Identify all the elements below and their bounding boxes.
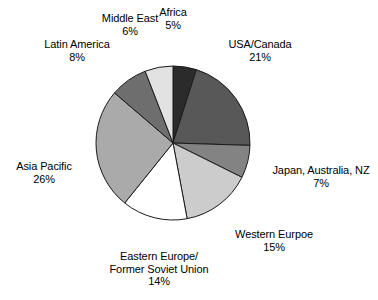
pie-label-japan-australia-nz-category: Japan, Australia, NZ — [265, 164, 377, 177]
pie-label-asia-pacific: Asia Pacific 26% — [6, 160, 82, 185]
pie-slice-group — [96, 66, 250, 220]
pie-label-latin-america-category: Latin America — [36, 38, 118, 51]
pie-chart: Africa 5% USA/Canada 21% Japan, Australi… — [0, 0, 378, 300]
pie-label-western-europe: Western Eurpoe 15% — [227, 228, 321, 253]
pie-label-middle-east-category: Middle East — [90, 12, 170, 25]
pie-label-eastern-europe-percent: 14% — [85, 275, 233, 288]
pie-label-eastern-europe: Eastern Europe/ Former Soviet Union 14% — [85, 250, 233, 288]
pie-label-western-europe-category: Western Eurpoe — [227, 228, 321, 241]
pie-label-asia-pacific-percent: 26% — [6, 173, 82, 186]
pie-label-japan-australia-nz: Japan, Australia, NZ 7% — [265, 164, 377, 189]
pie-label-middle-east: Middle East 6% — [90, 12, 170, 37]
pie-label-japan-australia-nz-percent: 7% — [265, 177, 377, 190]
pie-label-middle-east-percent: 6% — [90, 25, 170, 38]
pie-label-asia-pacific-category: Asia Pacific — [6, 160, 82, 173]
pie-label-latin-america: Latin America 8% — [36, 38, 118, 63]
pie-label-western-europe-percent: 15% — [227, 241, 321, 254]
pie-label-eastern-europe-line1: Eastern Europe/ — [85, 250, 233, 263]
pie-label-latin-america-percent: 8% — [36, 51, 118, 64]
pie-label-usa-canada-category: USA/Canada — [214, 38, 306, 51]
pie-label-usa-canada-percent: 21% — [214, 51, 306, 64]
pie-label-usa-canada: USA/Canada 21% — [214, 38, 306, 63]
pie-label-eastern-europe-line2: Former Soviet Union — [85, 263, 233, 276]
